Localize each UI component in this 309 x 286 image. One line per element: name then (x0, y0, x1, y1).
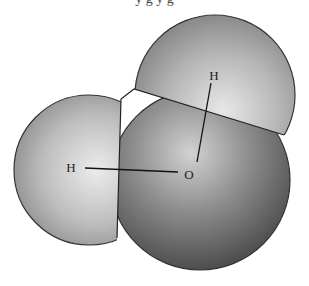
atom-label-h-top: H (209, 68, 218, 83)
atom-label-h-left: H (66, 160, 75, 175)
atom-label-o: O (184, 167, 193, 182)
space-filling-model: H H O (0, 0, 309, 286)
water-molecule-diagram: y g y g (0, 0, 309, 286)
cropped-caption: y g y g (0, 0, 309, 7)
